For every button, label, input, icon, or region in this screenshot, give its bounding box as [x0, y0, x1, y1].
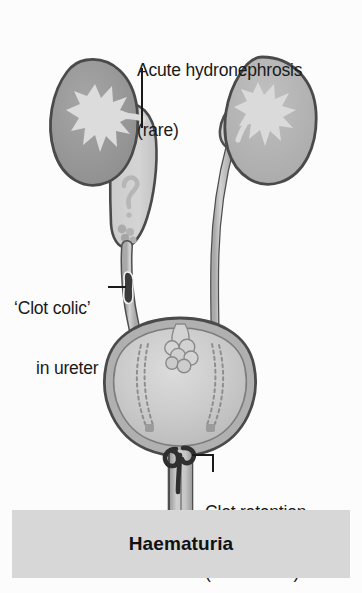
label-acute-hydronephrosis-line2: (rare) — [137, 120, 302, 140]
renal-pelvis-clot-dot — [126, 212, 131, 217]
haematuria-banner-label: Haematuria — [12, 510, 350, 578]
label-clot-colic: ‘Clot colic’ in ureter — [14, 258, 98, 418]
right-ureteric-orifice — [206, 424, 215, 432]
bladder-group — [104, 318, 255, 456]
label-acute-hydronephrosis: Acute hydronephrosis (rare) — [137, 20, 302, 180]
left-ureteric-orifice — [145, 424, 154, 432]
haematuria-figure: Acute hydronephrosis (rare) ‘Clot colic’… — [0, 0, 362, 593]
label-clot-colic-line1: ‘Clot colic’ — [14, 298, 98, 318]
label-acute-hydronephrosis-line1: Acute hydronephrosis — [137, 60, 302, 80]
label-clot-colic-line2: in ureter — [14, 358, 98, 378]
